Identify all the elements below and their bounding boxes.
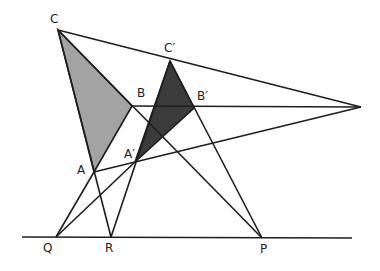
label-b: B [137, 87, 145, 99]
label-q: Q [43, 242, 52, 254]
perspective-axis-line [22, 237, 352, 238]
diagram-canvas [0, 0, 380, 271]
line-B-O [132, 106, 361, 107]
label-a: A [77, 164, 85, 176]
label-b-prime: B′ [197, 90, 208, 102]
line-A-Q [56, 172, 94, 237]
label-r: R [105, 242, 113, 254]
label-c: C [50, 13, 58, 25]
label-c-prime: C′ [164, 42, 175, 54]
triangle-abc [58, 30, 132, 172]
label-p: P [260, 243, 267, 255]
label-a-prime: A′ [124, 148, 135, 160]
desargues-diagram: C C′ B B′ A A′ Q R P [0, 0, 380, 271]
